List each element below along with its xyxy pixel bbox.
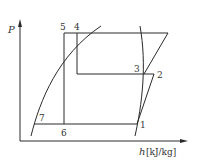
x-axis-label-unit: [kJ/kg]	[146, 147, 176, 157]
line-compression-low	[137, 74, 154, 124]
x-axis-arrow-icon	[180, 139, 188, 143]
p-h-diagram: P h [kJ/kg] 5 4 3 2 1 7 6	[0, 0, 199, 165]
y-axis-label: P	[7, 24, 15, 35]
point-label-5: 5	[60, 22, 66, 32]
point-label-7: 7	[39, 113, 45, 123]
axes	[20, 24, 183, 141]
line-compression-high	[144, 33, 168, 74]
point-label-2: 2	[157, 70, 163, 80]
point-label-6: 6	[61, 128, 67, 138]
x-axis-label-symbol: h	[139, 146, 145, 157]
point-label-3: 3	[134, 64, 140, 74]
y-axis-arrow-icon	[18, 19, 22, 27]
point-label-4: 4	[74, 22, 80, 32]
point-label-1: 1	[140, 120, 146, 130]
cycle-lines	[34, 33, 168, 124]
